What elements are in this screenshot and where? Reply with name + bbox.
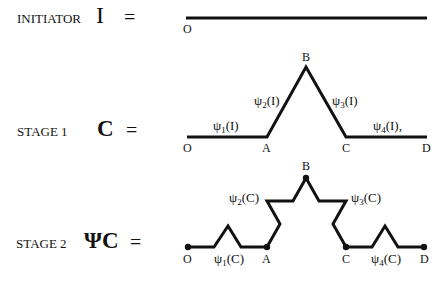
stage2-segment-label-2: ψ2(C) bbox=[229, 190, 259, 207]
stage1-segment-label-1: ψ1(I) bbox=[213, 118, 239, 135]
stage2-point-d-dot bbox=[421, 244, 427, 250]
stage1-segment-label-4: ψ4(I), bbox=[373, 118, 402, 135]
stage1-point-a: A bbox=[262, 141, 271, 155]
stage2-point-a: A bbox=[262, 252, 271, 266]
stage1-point-c: C bbox=[342, 141, 350, 155]
stage2-point-b-dot bbox=[303, 175, 309, 181]
stage2-point-o-dot bbox=[185, 244, 191, 250]
stage1-segment-label-3: ψ3(I) bbox=[332, 93, 358, 110]
stage2-point-o: O bbox=[183, 252, 192, 266]
stage2-koch-curve bbox=[188, 178, 424, 247]
stage1-segment-label-2: ψ2(I) bbox=[254, 93, 280, 110]
koch-construction-diagram: O O A B C D ψ1(I) ψ2(I) ψ3(I) ψ4(I), O A… bbox=[0, 0, 442, 283]
stage2-point-d: D bbox=[420, 252, 429, 266]
stage2-segment-label-4: ψ4(C) bbox=[371, 251, 401, 268]
stage2-point-c: C bbox=[342, 252, 350, 266]
initiator-point-o: O bbox=[183, 22, 192, 36]
stage1-point-b: B bbox=[302, 50, 310, 64]
stage2-point-a-dot bbox=[264, 244, 270, 250]
stage2-point-c-dot bbox=[343, 244, 349, 250]
stage2-segment-label-1: ψ1(C) bbox=[214, 251, 244, 268]
stage1-point-o: O bbox=[183, 141, 192, 155]
stage2-point-b: B bbox=[302, 159, 310, 173]
stage1-point-d: D bbox=[422, 141, 431, 155]
stage2-segment-label-3: ψ3(C) bbox=[351, 190, 381, 207]
